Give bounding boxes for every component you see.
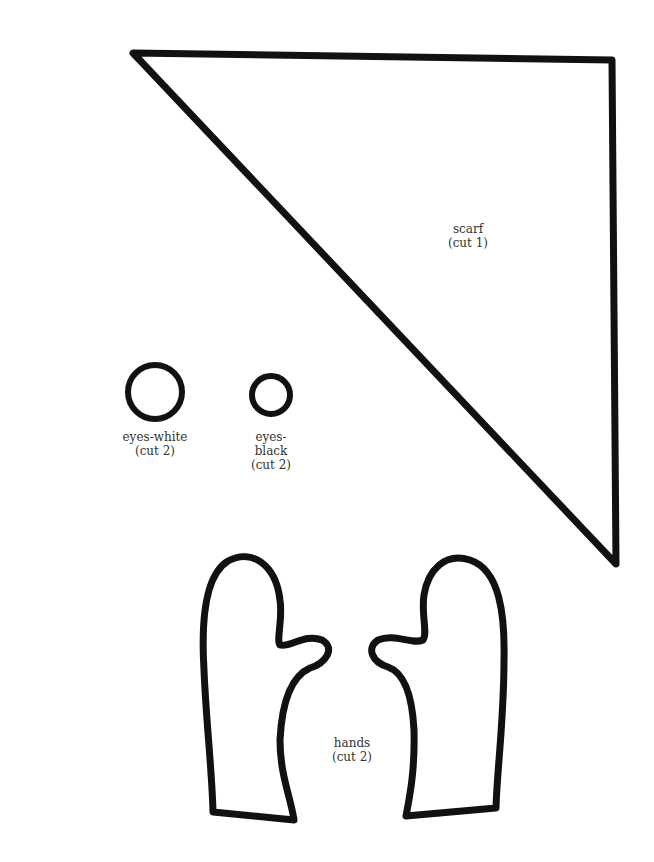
hands-instruction: (cut 2) [322, 750, 382, 764]
eyes-black-instruction: (cut 2) [236, 458, 306, 472]
hands-name: hands [322, 736, 382, 750]
right-mitten-outline [372, 558, 504, 816]
eye-white-outline [128, 365, 182, 419]
eyes-black-name-1: eyes- [236, 430, 306, 444]
hands-label: hands (cut 2) [322, 736, 382, 764]
left-mitten-outline [203, 557, 329, 820]
eyes-black-label: eyes- black (cut 2) [236, 430, 306, 472]
eyes-white-instruction: (cut 2) [110, 444, 200, 458]
scarf-label: scarf (cut 1) [438, 222, 498, 250]
scarf-name: scarf [438, 222, 498, 236]
scarf-instruction: (cut 1) [438, 236, 498, 250]
pattern-sheet [0, 0, 654, 862]
eye-black-outline [252, 376, 290, 414]
eyes-white-name: eyes-white [110, 430, 200, 444]
scarf-outline [133, 53, 616, 564]
eyes-white-label: eyes-white (cut 2) [110, 430, 200, 458]
eyes-black-name-2: black [236, 444, 306, 458]
